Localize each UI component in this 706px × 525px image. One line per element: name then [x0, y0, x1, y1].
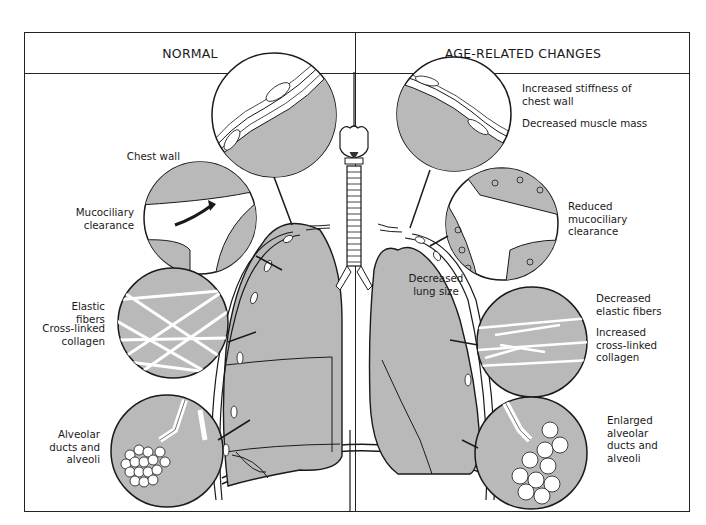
- label-line: Decreased: [396, 272, 476, 285]
- label-line: Increased stiffness of: [522, 82, 682, 95]
- label-line: Cross-linked: [40, 322, 105, 335]
- label-reduced-mucociliary: Reduced mucociliary clearance: [568, 200, 668, 238]
- label-decreased-elastic-fibers: Decreased elastic fibers: [596, 292, 686, 317]
- aged-alveoli-inset: [462, 397, 587, 509]
- label-line: Decreased: [596, 292, 686, 305]
- label-line: clearance: [568, 225, 668, 238]
- label-line: alveolar: [607, 427, 687, 440]
- label-line: elastic fibers: [596, 305, 686, 318]
- label-line: Mucociliary: [60, 206, 134, 219]
- label-line: mucociliary: [568, 213, 668, 226]
- label-line: clearance: [60, 219, 134, 232]
- label-line: Decreased muscle mass: [522, 117, 682, 130]
- normal-elastic-fibers-inset: [115, 268, 230, 380]
- trachea: [336, 72, 372, 290]
- label-alveolar-ducts: Alveolar ducts and alveoli: [40, 428, 100, 466]
- label-cross-linked-collagen: Cross-linked collagen: [40, 322, 105, 347]
- label-increased-stiffness: Increased stiffness of chest wall: [522, 82, 682, 107]
- label-line: alveoli: [40, 453, 100, 466]
- label-line: Reduced: [568, 200, 668, 213]
- label-line: Enlarged: [607, 414, 687, 427]
- label-increased-cross-linked: Increased cross-linked collagen: [596, 326, 686, 364]
- label-line: lung size: [396, 285, 476, 298]
- label-enlarged-alveolar: Enlarged alveolar ducts and alveoli: [607, 414, 687, 464]
- label-line: alveoli: [607, 452, 687, 465]
- label-line: Increased: [596, 326, 686, 339]
- label-line: ducts and: [40, 441, 100, 454]
- label-line: ducts and: [607, 439, 687, 452]
- lung-illustration: [0, 0, 706, 525]
- label-line: chest wall: [522, 95, 682, 108]
- label-line: cross-linked: [596, 339, 686, 352]
- label-line: collagen: [40, 335, 105, 348]
- label-line: Chest wall: [110, 150, 180, 163]
- label-decreased-lung-size: Decreased lung size: [396, 272, 476, 297]
- label-mucociliary-clearance: Mucociliary clearance: [60, 206, 134, 231]
- label-line: collagen: [596, 351, 686, 364]
- label-line: Alveolar: [40, 428, 100, 441]
- label-chest-wall: Chest wall: [110, 150, 180, 163]
- label-decreased-muscle-mass: Decreased muscle mass: [522, 117, 682, 130]
- normal-mucociliary-inset: [140, 160, 260, 280]
